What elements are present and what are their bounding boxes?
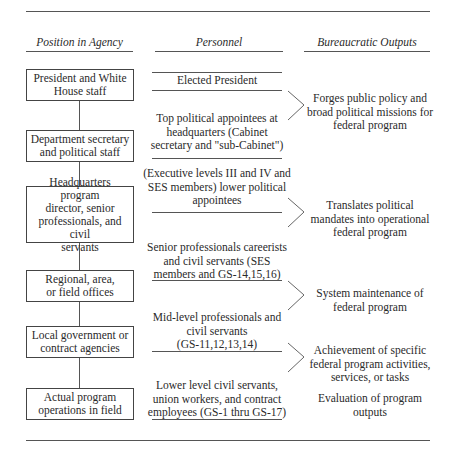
personnel-rule-6 (152, 419, 282, 420)
chevron-right-icon (287, 342, 307, 378)
position-box-department: Department secretaryand political staff (26, 130, 134, 162)
personnel-lower-level: Lower level civil servants,union workers… (144, 379, 290, 420)
position-box-field: Actual programoperations in field (26, 388, 134, 420)
personnel-rule-5 (152, 351, 282, 352)
bottom-rule (26, 440, 430, 441)
output-forges-policy: Forges public policy andbroad political … (306, 92, 434, 133)
personnel-rule-3 (152, 212, 282, 213)
chevron-right-icon (287, 90, 307, 126)
chevron-right-icon (287, 197, 307, 233)
personnel-rule-4 (152, 280, 282, 281)
header-personnel-rule (155, 51, 283, 52)
personnel-rule-2 (152, 158, 282, 159)
position-box-regional: Regional, area,or field offices (26, 270, 134, 302)
header-outputs-rule (304, 51, 430, 52)
personnel-executive-levels: (Executive levels III and IV andSES memb… (140, 167, 294, 208)
personnel-elected: Elected President (150, 74, 284, 88)
chevron-right-icon (287, 280, 307, 316)
header-personnel: Personnel (155, 36, 283, 48)
personnel-top-appointees: Top political appointees atheadquarters … (146, 112, 288, 153)
top-rule (26, 11, 430, 12)
output-system-maintenance: System maintenance offederal program (306, 287, 434, 314)
position-box-president: President and WhiteHouse staff (26, 69, 134, 101)
position-box-headquarters: Headquarters programdirector, seniorprof… (26, 186, 134, 243)
position-box-local: Local government orcontract agencies (26, 326, 134, 358)
header-outputs: Bureaucratic Outputs (304, 36, 430, 48)
personnel-rule-1 (152, 90, 282, 91)
personnel-rule-0 (152, 72, 282, 73)
output-achievement: Achievement of specificfederal program a… (306, 344, 434, 385)
personnel-mid-level: Mid-level professionals andcivil servant… (146, 311, 288, 352)
personnel-senior-careerists: Senior professionals careeristsand civil… (144, 241, 290, 282)
header-position: Position in Agency (26, 36, 133, 48)
output-evaluation: Evaluation of programoutputs (306, 392, 434, 419)
header-position-rule (26, 51, 133, 52)
output-translates-mandates: Translates politicalmandates into operat… (306, 199, 434, 240)
